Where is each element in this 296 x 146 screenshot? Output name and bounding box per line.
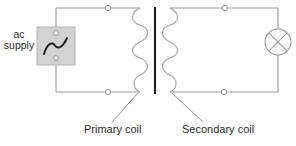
secondary-coil-label: Secondary coil bbox=[182, 124, 254, 136]
ac-supply-bottom-terminal-dot bbox=[54, 56, 59, 61]
secondary-coil-leader-line bbox=[172, 93, 203, 122]
circuit-diagram-canvas: ac supply Primary coil Secondary coil bbox=[0, 0, 296, 146]
ac-supply-label: ac supply bbox=[2, 29, 36, 52]
secondary-circuit-group bbox=[163, 5, 279, 94]
secondary-top-terminal-dot bbox=[222, 5, 227, 10]
ac-supply-label-line2: supply bbox=[2, 40, 36, 51]
primary-coil-winding bbox=[133, 8, 148, 92]
primary-bottom-terminal-dot bbox=[105, 89, 110, 94]
leader-lines-group bbox=[112, 93, 203, 122]
ac-supply-top-terminal-dot bbox=[54, 31, 59, 36]
lamp-symbol bbox=[265, 29, 291, 55]
primary-coil-leader-line bbox=[112, 93, 138, 122]
primary-coil-label: Primary coil bbox=[84, 124, 141, 136]
ac-supply-source bbox=[37, 27, 75, 65]
secondary-coil-winding bbox=[163, 8, 178, 92]
secondary-bottom-terminal-dot bbox=[221, 89, 226, 94]
primary-top-terminal-dot bbox=[105, 5, 110, 10]
